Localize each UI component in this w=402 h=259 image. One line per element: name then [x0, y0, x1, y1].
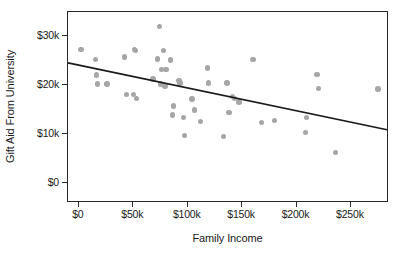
y-tick-label: $20k — [0, 79, 59, 89]
y-tick-label: $10k — [0, 128, 59, 138]
trend-line-layer — [68, 12, 387, 201]
x-tick-mark — [187, 202, 188, 207]
x-tick-mark — [132, 202, 133, 207]
plot-area — [67, 11, 388, 202]
x-tick-mark — [296, 202, 297, 207]
x-axis-title: Family Income — [67, 232, 388, 244]
scatter-chart: Gift Aid From University Family Income $… — [0, 0, 402, 259]
x-tick-mark — [78, 202, 79, 207]
y-tick-label: $30k — [0, 30, 59, 40]
trend-line — [68, 63, 387, 130]
y-tick-label: $0 — [0, 177, 59, 187]
x-tick-mark — [350, 202, 351, 207]
x-tick-label: $250k — [315, 209, 385, 220]
x-tick-mark — [241, 202, 242, 207]
